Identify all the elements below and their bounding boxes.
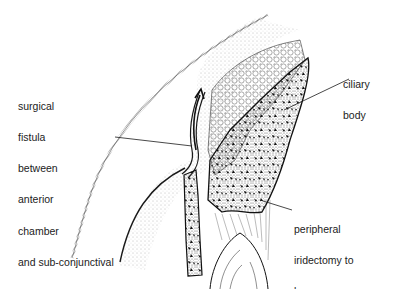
label-ciliary-body: ciliary body: [343, 58, 370, 131]
label-peripheral-iridectomy: peripheral iridectomy to bypass a narrow…: [294, 203, 392, 289]
label-surgical-fistula: surgical fistula between anterior chambe…: [18, 80, 114, 289]
iris: [184, 170, 202, 276]
fistula-leader-line: [115, 137, 192, 146]
lens: [210, 233, 268, 289]
